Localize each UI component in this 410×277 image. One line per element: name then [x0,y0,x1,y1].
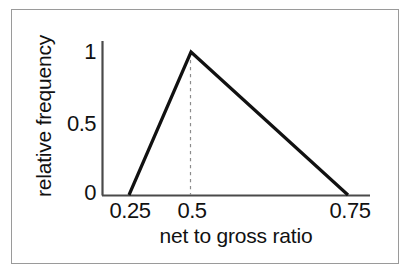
x-tick-label-0point75: 0.75 [310,198,390,224]
x-tick-label-0point5: 0.5 [152,198,232,224]
figure: 1 0.5 0 0.25 0.5 0.75 relative frequency… [0,0,410,277]
distribution-curve [129,52,348,195]
x-axis-title: net to gross ratio [102,224,370,248]
y-axis-title: relative frequency [32,26,56,206]
